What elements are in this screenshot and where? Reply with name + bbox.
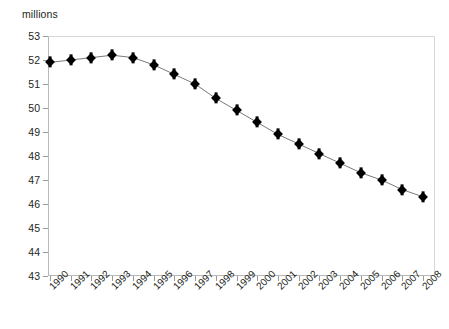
chart-container: millions 5352515049484746454443 19901991…: [0, 0, 449, 329]
series-polyline: [50, 55, 423, 197]
series-line-layer: [0, 0, 449, 329]
